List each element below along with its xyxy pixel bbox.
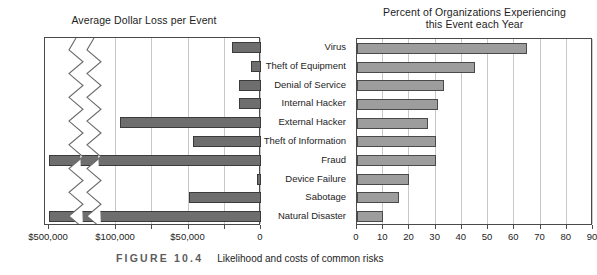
figure-container: Average Dollar Loss per Event Percent of… (0, 0, 597, 275)
right-chart-bar (357, 174, 409, 185)
left-chart-tick-mark (260, 225, 261, 229)
right-chart-tick-label: 90 (587, 231, 597, 242)
left-chart-tick-mark (188, 225, 189, 229)
right-chart-bar (357, 192, 399, 203)
right-chart-bar (357, 211, 383, 222)
left-chart-bar (193, 136, 261, 147)
right-chart-tick-mark (382, 225, 383, 229)
left-chart-plot-area (44, 37, 260, 225)
left-chart-tick-mark (48, 225, 49, 229)
category-label: Theft of Equipment (266, 60, 346, 71)
right-chart-gridline (513, 39, 514, 224)
right-chart-gridline (487, 39, 488, 224)
axis-break-zigzag-outer (67, 38, 85, 224)
left-chart-tick-label: $500,000 (28, 231, 68, 242)
category-label: Virus (325, 41, 346, 52)
right-chart-gridline (540, 39, 541, 224)
right-chart-tick-label: 30 (429, 231, 440, 242)
left-chart-tick-mark (224, 225, 225, 229)
left-chart-bar (239, 80, 261, 91)
right-chart-bar (357, 99, 438, 110)
right-chart-tick-mark (513, 225, 514, 229)
right-chart-bar (357, 155, 436, 166)
right-chart-x-axis: 0102030405060708090 (340, 225, 597, 247)
category-label: Device Failure (285, 173, 346, 184)
left-chart-gridline (151, 38, 152, 224)
left-chart-bar (120, 117, 261, 128)
left-chart-title: Average Dollar Loss per Event (24, 14, 264, 26)
left-chart-tick-label: $100,000 (95, 231, 135, 242)
right-chart-bar (357, 118, 428, 129)
right-chart-bar (357, 62, 475, 73)
left-chart-bar (232, 42, 261, 53)
axis-break-zigzag-inner (85, 38, 103, 224)
category-label: Fraud (321, 154, 346, 165)
right-chart-gridline (566, 39, 567, 224)
left-chart-bar (239, 98, 261, 109)
right-chart-bar (357, 43, 527, 54)
right-chart-tick-label: 0 (353, 231, 358, 242)
figure-caption: FIGURE 10.4Likelihood and costs of commo… (116, 252, 383, 264)
figure-caption-text: Likelihood and costs of common risks (217, 253, 383, 264)
right-chart-plot-area (356, 38, 592, 225)
right-chart-tick-mark (566, 225, 567, 229)
right-chart-tick-mark (356, 225, 357, 229)
right-chart-tick-label: 60 (508, 231, 519, 242)
left-chart-bar (189, 192, 262, 203)
right-chart-title-line2: this Event each Year (352, 18, 597, 30)
figure-number: FIGURE 10.4 (116, 252, 203, 264)
left-chart-bar (251, 61, 261, 72)
right-chart-tick-mark (592, 225, 593, 229)
right-chart-tick-label: 40 (456, 231, 467, 242)
right-chart-gridline (592, 39, 593, 224)
category-label: Sabotage (305, 191, 346, 202)
right-chart-tick-label: 50 (482, 231, 493, 242)
right-chart-bar (357, 80, 444, 91)
right-chart-tick-mark (540, 225, 541, 229)
right-chart-title-line1: Percent of Organizations Experiencing (352, 6, 597, 18)
right-chart-tick-label: 10 (377, 231, 388, 242)
category-label: Internal Hacker (282, 97, 346, 108)
left-chart-tick-label: $50,000 (170, 231, 204, 242)
category-label: Theft of Information (264, 135, 346, 146)
right-chart-bar (357, 136, 436, 147)
right-chart-tick-mark (435, 225, 436, 229)
right-chart-tick-label: 80 (560, 231, 571, 242)
right-chart-tick-mark (408, 225, 409, 229)
left-chart-tick-mark (151, 225, 152, 229)
left-chart-tick-mark (115, 225, 116, 229)
category-label: External Hacker (278, 116, 346, 127)
right-chart-tick-mark (487, 225, 488, 229)
left-chart-x-axis: $500,000$100,000$50,0000 (0, 225, 300, 247)
right-chart-tick-label: 70 (534, 231, 545, 242)
right-chart-title: Percent of Organizations Experiencing th… (352, 6, 597, 30)
left-chart-bar (257, 174, 261, 185)
category-label: Natural Disaster (278, 210, 346, 221)
right-chart-tick-label: 20 (403, 231, 414, 242)
category-label-column: VirusTheft of EquipmentDenial of Service… (262, 37, 350, 225)
right-chart-tick-mark (461, 225, 462, 229)
category-label: Denial of Service (274, 79, 346, 90)
left-chart-gridline (115, 38, 116, 224)
left-chart-tick-label: 0 (257, 231, 262, 242)
